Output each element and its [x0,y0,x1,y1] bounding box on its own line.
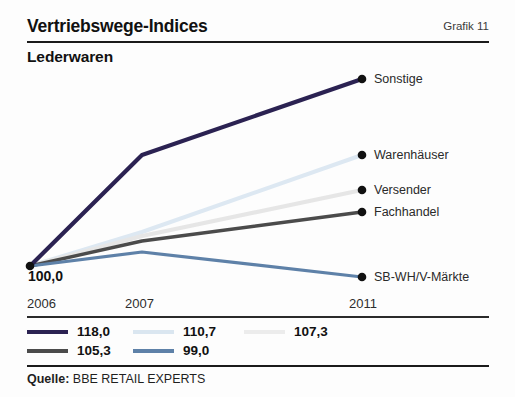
data-point-versender [358,186,367,195]
data-point-warenhaeuser [358,151,367,160]
legend-swatch-sonstige [27,330,68,334]
figure-number: Grafik 11 [443,20,489,32]
legend-row: 105,3 99,0 [27,341,489,360]
series-line-sonstige [30,79,362,266]
x-axis-tick-2006: 2006 [27,296,56,311]
series-line-warenhaeuser [30,155,362,266]
chart-subtitle: Lederwaren [27,48,113,66]
source-text: BBE RETAIL EXPERTS [69,372,205,386]
legend-swatch-fachhandel [27,349,68,353]
base-value-annotation: 100,0 [28,268,63,284]
series-label-warenhaeuser: Warenhäuser [374,149,449,162]
data-point-fachhandel [358,208,367,217]
series-line-versender [30,190,362,266]
series-line-sb-wh-v-maerkte [30,252,362,277]
legend-swatch-sb-wh-v-maerkte [133,349,174,353]
legend-item-versender[interactable]: 107,3 [244,322,328,341]
legend-row: 118,0 110,7 107,3 [27,322,489,341]
x-axis-tick-2011: 2011 [349,296,377,311]
series-label-versender: Versender [374,184,431,197]
source-note: Quelle: BBE RETAIL EXPERTS [27,372,205,386]
legend-item-sonstige[interactable]: 118,0 [27,322,133,341]
header-divider [27,41,489,43]
legend-value-sonstige: 118,0 [77,324,110,339]
series-line-fachhandel [30,212,362,266]
series-label-fachhandel: Fachhandel [374,206,439,219]
series-label-sonstige: Sonstige [374,73,423,86]
series-label-sb-wh-v-maerkte: SB-WH/V-Märkte [374,271,469,284]
legend-item-fachhandel[interactable]: 105,3 [27,341,133,360]
legend-swatch-warenhaeuser [133,330,174,334]
footer-divider [27,365,489,367]
source-label: Quelle: [27,372,69,386]
legend-value-fachhandel: 105,3 [77,343,111,358]
legend-item-warenhaeuser[interactable]: 110,7 [133,322,244,341]
legend-swatch-versender [244,330,285,334]
legend-value-versender: 107,3 [294,324,328,339]
data-point-sb-wh-v-maerkte [358,273,367,282]
legend-value-warenhaeuser: 110,7 [183,324,216,339]
legend-value-sb-wh-v-maerkte: 99,0 [183,343,209,358]
x-axis-tick-2007: 2007 [125,296,154,311]
x-axis-line [27,316,489,318]
page-title: Vertriebswege-Indices [27,16,208,37]
chart-legend: 118,0 110,7 107,3 105,3 99,0 [27,322,489,360]
data-point-sonstige [358,75,367,84]
legend-item-sb-wh-v-maerkte[interactable]: 99,0 [133,341,244,360]
chart-card: Vertriebswege-Indices Grafik 11 Lederwar… [0,0,515,397]
